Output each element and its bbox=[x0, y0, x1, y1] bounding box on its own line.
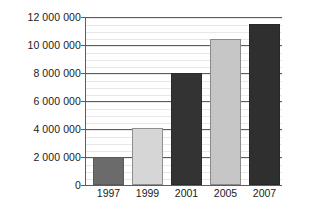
bar-chart: 12 000 000 10 000 000 8 000 000 6 000 00… bbox=[0, 0, 319, 215]
bar-1999 bbox=[132, 128, 163, 185]
y-tick-label: 4 000 000 bbox=[3, 124, 81, 135]
x-axis-tick-labels: 1997 1999 2001 2005 2007 bbox=[85, 188, 281, 210]
bar-1997 bbox=[93, 157, 124, 185]
y-tick-label: 12 000 000 bbox=[3, 12, 81, 23]
x-tick-label-1999: 1999 bbox=[127, 188, 168, 199]
y-tick-label: 2 000 000 bbox=[3, 152, 81, 163]
bar-2001 bbox=[171, 73, 202, 185]
bar-2005 bbox=[210, 39, 241, 185]
x-tick-label-1997: 1997 bbox=[88, 188, 129, 199]
y-tick-label: 10 000 000 bbox=[3, 40, 81, 51]
y-tick-label: 6 000 000 bbox=[3, 96, 81, 107]
x-tick-label-2007: 2007 bbox=[244, 188, 285, 199]
x-axis-line bbox=[85, 185, 282, 186]
bars-layer bbox=[85, 17, 281, 185]
y-tick-label: 0 bbox=[3, 180, 81, 191]
y-tick-label: 8 000 000 bbox=[3, 68, 81, 79]
x-tick-label-2001: 2001 bbox=[166, 188, 207, 199]
y-axis-tick-labels: 12 000 000 10 000 000 8 000 000 6 000 00… bbox=[0, 0, 81, 215]
bar-2007 bbox=[249, 24, 280, 185]
x-tick-label-2005: 2005 bbox=[205, 188, 246, 199]
